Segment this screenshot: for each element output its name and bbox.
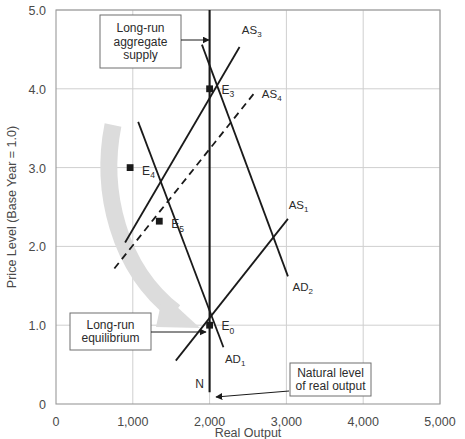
equilibrium-point-e3 (206, 85, 213, 92)
lras-callout-line: Long-run (116, 21, 164, 35)
x-axis-title: Real Output (215, 426, 282, 439)
lras-callout-line: aggregate (113, 35, 167, 49)
equilibrium-label-e5: E5 (171, 217, 184, 234)
equilibrium-point-e4 (127, 164, 134, 171)
curve-label-as4: AS4 (262, 88, 282, 103)
equilibrium-label-e4: E4 (142, 164, 155, 181)
curve-ad2 (202, 45, 288, 277)
y-axis-tick-label: 2.0 (29, 240, 46, 254)
equilibrium-label-e0: E0 (222, 319, 235, 336)
lras-callout-line: supply (123, 48, 158, 62)
curve-label-as3: AS3 (242, 24, 262, 39)
x-axis-tick-label: 0 (53, 415, 60, 429)
natural-output-marker-label: N (195, 377, 204, 391)
equilibrium-callout-line: Long-run (86, 318, 134, 332)
curve-label-ad1: AD1 (225, 353, 246, 368)
x-axis-tick-label: 1,000 (117, 415, 148, 429)
equilibrium-label-e3: E3 (222, 83, 235, 100)
chart-canvas: AS1AS3AS4AD1AD2E0E3E4E5NLong-runaggregat… (0, 0, 465, 439)
natural-output-callout-arrow (216, 391, 289, 397)
curve-label-as1: AS1 (289, 199, 309, 214)
equilibrium-point-e5 (156, 218, 163, 225)
y-axis-tick-label: 5.0 (29, 4, 46, 18)
natural-output-callout-line: of real output (295, 379, 366, 393)
y-axis-tick-label: 1.0 (29, 319, 46, 333)
curve-as3 (125, 47, 239, 242)
curve-label-ad2: AD2 (293, 281, 314, 296)
y-axis-tick-label: 0 (39, 398, 46, 412)
x-axis-tick-label: 4,000 (348, 415, 379, 429)
curve-as4 (114, 90, 256, 268)
equilibrium-callout-line: equilibrium (81, 331, 139, 345)
y-axis-tick-label: 4.0 (29, 83, 46, 97)
aggregate-supply-demand-chart: AS1AS3AS4AD1AD2E0E3E4E5NLong-runaggregat… (0, 0, 465, 439)
y-axis-tick-label: 3.0 (29, 162, 46, 176)
adjustment-sweep-arrow-icon (109, 125, 200, 328)
x-axis-tick-label: 5,000 (424, 415, 455, 429)
equilibrium-point-e0 (206, 322, 213, 329)
y-axis-title: Price Level (Base Year = 1.0) (5, 126, 19, 288)
curve-as1 (176, 219, 288, 361)
natural-output-callout-line: Natural level (297, 366, 364, 380)
